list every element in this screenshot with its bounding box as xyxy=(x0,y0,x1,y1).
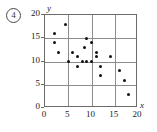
y-tick-label-5: 5 xyxy=(18,78,40,88)
y-tick-mark-0 xyxy=(41,107,44,108)
data-point xyxy=(99,74,102,77)
data-point xyxy=(57,51,60,54)
y-tick-label-15: 15 xyxy=(18,31,40,41)
x-tick-label-20: 20 xyxy=(127,109,147,119)
data-point xyxy=(83,46,86,49)
gridline-horizontal-5 xyxy=(45,85,136,86)
data-point xyxy=(76,55,79,58)
x-tick-label-0: 0 xyxy=(34,109,54,119)
gridline-horizontal-15 xyxy=(45,38,136,39)
data-point xyxy=(99,65,102,68)
data-point xyxy=(90,41,93,44)
gridline-vertical-15 xyxy=(115,15,116,106)
y-tick-label-20: 20 xyxy=(18,8,40,18)
data-point xyxy=(53,41,56,44)
data-point xyxy=(64,23,67,26)
data-point xyxy=(67,60,70,63)
data-point xyxy=(90,60,93,63)
scatter-plot-figure: 4 y x 05101520 05101520 xyxy=(0,0,157,132)
data-point xyxy=(81,60,84,63)
data-point xyxy=(71,51,74,54)
data-point xyxy=(53,32,56,35)
data-point xyxy=(85,60,88,63)
x-tick-label-10: 10 xyxy=(81,109,101,119)
data-point xyxy=(118,69,121,72)
data-point xyxy=(85,37,88,40)
y-tick-label-10: 10 xyxy=(18,55,40,65)
data-point xyxy=(127,93,130,96)
data-point xyxy=(123,79,126,82)
data-point xyxy=(76,65,79,68)
plot-area xyxy=(44,14,137,107)
data-point xyxy=(95,55,98,58)
x-tick-label-5: 5 xyxy=(57,109,77,119)
data-point xyxy=(109,55,112,58)
y-axis-label: y xyxy=(47,3,51,13)
x-tick-label-15: 15 xyxy=(104,109,124,119)
data-point xyxy=(95,51,98,54)
